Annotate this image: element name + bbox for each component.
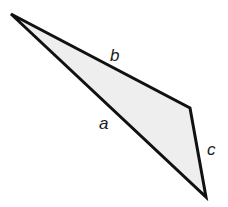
triangle-shape xyxy=(11,14,206,197)
side-label-b: b xyxy=(110,46,119,65)
side-label-c: c xyxy=(207,140,216,159)
triangle-diagram: b a c xyxy=(0,0,228,207)
side-label-a: a xyxy=(99,114,108,133)
